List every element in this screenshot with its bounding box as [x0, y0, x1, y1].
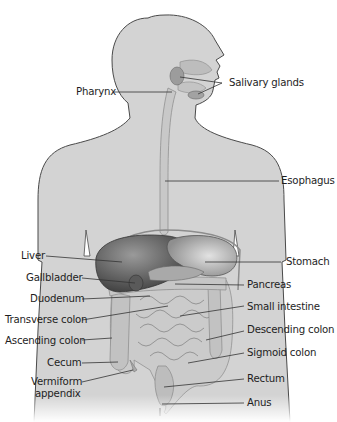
label-ascending-colon: Ascending colon: [5, 335, 85, 347]
label-anus: Anus: [247, 397, 271, 409]
digestive-system-diagram: Pharynx Liver Gallbladder Duodenum Trans…: [0, 0, 337, 422]
label-gallbladder: Gallbladder: [26, 272, 83, 284]
label-descending-colon: Descending colon: [247, 324, 334, 336]
label-sigmoid-colon: Sigmoid colon: [247, 347, 316, 359]
label-pharynx: Pharynx: [76, 86, 116, 98]
label-vermiform-appendix-line2: appendix: [35, 388, 81, 400]
label-rectum: Rectum: [247, 373, 285, 385]
label-duodenum: Duodenum: [30, 293, 85, 305]
label-transverse-colon: Transverse colon: [5, 314, 87, 326]
label-salivary-glands: Salivary glands: [229, 77, 304, 89]
label-pancreas: Pancreas: [247, 279, 291, 291]
label-small-intestine: Small intestine: [247, 301, 320, 313]
label-liver: Liver: [21, 250, 45, 262]
label-vermiform-appendix-line1: Vermiform: [31, 376, 82, 388]
label-cecum: Cecum: [47, 357, 81, 369]
label-stomach: Stomach: [286, 256, 330, 268]
label-esophagus: Esophagus: [281, 175, 335, 187]
